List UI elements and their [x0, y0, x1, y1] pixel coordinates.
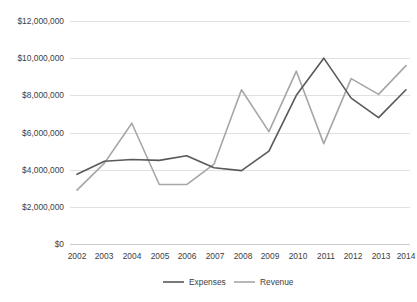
x-tick-label-2002: 2002: [68, 251, 87, 261]
chart-canvas: $12,000,000 $10,000,000 $8,000,000 $6,00…: [0, 0, 417, 302]
series-line-expenses: [77, 58, 406, 174]
x-tick-label-2010: 2010: [289, 251, 308, 261]
series-line-revenue: [77, 66, 406, 191]
x-tick-label-2006: 2006: [178, 251, 197, 261]
x-tick-label-2004: 2004: [123, 251, 142, 261]
x-tick-label-2009: 2009: [261, 251, 280, 261]
x-tick-label-2013: 2013: [372, 251, 391, 261]
y-tick-label-0: $0: [55, 239, 65, 249]
x-tick-label-2005: 2005: [151, 251, 170, 261]
y-tick-label-6m: $6,000,000: [22, 128, 64, 138]
x-tick-label-2012: 2012: [344, 251, 363, 261]
y-axis-tick-labels: $12,000,000 $10,000,000 $8,000,000 $6,00…: [17, 16, 64, 249]
legend: Expenses Revenue: [163, 277, 294, 287]
y-tick-label-10m: $10,000,000: [17, 53, 64, 63]
x-tick-label-2007: 2007: [206, 251, 225, 261]
x-tick-label-2003: 2003: [95, 251, 114, 261]
legend-label-revenue: Revenue: [260, 277, 294, 287]
y-tick-label-8m: $8,000,000: [22, 90, 64, 100]
x-axis-tick-labels: 2002 2003 2004 2005 2006 2007 2008 2009 …: [68, 251, 416, 261]
y-tick-label-4m: $4,000,000: [22, 165, 64, 175]
line-chart: $12,000,000 $10,000,000 $8,000,000 $6,00…: [0, 0, 417, 302]
y-tick-label-2m: $2,000,000: [22, 202, 64, 212]
y-tick-label-12m: $12,000,000: [17, 16, 64, 26]
gridlines: [70, 21, 410, 244]
x-tick-label-2011: 2011: [317, 251, 335, 261]
x-tick-label-2008: 2008: [234, 251, 253, 261]
x-tick-label-2014: 2014: [397, 251, 416, 261]
legend-label-expenses: Expenses: [189, 277, 226, 287]
